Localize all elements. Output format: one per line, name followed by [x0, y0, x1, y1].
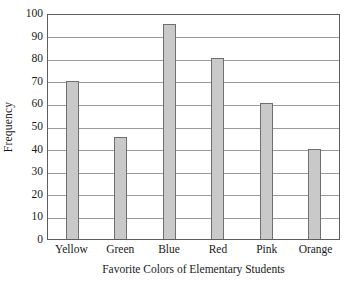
- y-axis-tick-label: 10: [16, 211, 43, 222]
- plot-area: [47, 14, 340, 240]
- x-axis-title: Favorite Colors of Elementary Students: [47, 263, 340, 275]
- x-axis-tick-labels: YellowGreenBlueRedPinkOrange: [47, 242, 340, 259]
- y-axis-tick-label: 50: [16, 121, 43, 132]
- bars-layer: [48, 15, 339, 239]
- bar: [114, 137, 127, 239]
- y-axis-title: Frequency: [0, 14, 16, 240]
- x-axis-tick-label: Blue: [145, 242, 194, 259]
- x-axis-tick-label: Pink: [242, 242, 291, 259]
- bar: [260, 103, 273, 239]
- x-axis-tick-label: Orange: [291, 242, 340, 259]
- bar: [308, 149, 321, 239]
- y-axis-tick-label: 30: [16, 166, 43, 177]
- bar-slot: [48, 15, 97, 239]
- x-axis-tick-label: Green: [96, 242, 145, 259]
- bar: [211, 58, 224, 239]
- bar-slot: [194, 15, 243, 239]
- y-axis-tick-label: 60: [16, 98, 43, 109]
- y-axis-tick-label: 70: [16, 76, 43, 87]
- bar-slot: [242, 15, 291, 239]
- y-axis-tick-label: 40: [16, 144, 43, 155]
- y-axis-tick-label: 100: [16, 8, 43, 19]
- y-axis-tick-label: 0: [16, 234, 43, 245]
- x-axis-tick-label: Yellow: [47, 242, 96, 259]
- bar: [66, 81, 79, 239]
- y-axis-tick-labels: 1009080706050403020100: [16, 14, 47, 240]
- bar-slot: [145, 15, 194, 239]
- y-axis-tick-label: 20: [16, 189, 43, 200]
- bar-slot: [97, 15, 146, 239]
- y-axis-title-text: Frequency: [2, 102, 14, 152]
- bar-chart-figure: Frequency 1009080706050403020100 YellowG…: [0, 0, 355, 290]
- y-axis-tick-label: 80: [16, 53, 43, 64]
- bar: [163, 24, 176, 239]
- y-axis-tick-label: 90: [16, 31, 43, 42]
- x-axis-tick-label: Red: [193, 242, 242, 259]
- bar-slot: [291, 15, 340, 239]
